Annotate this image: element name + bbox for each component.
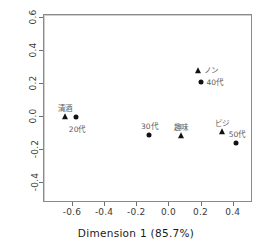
- data-point-label: 50代: [229, 127, 246, 138]
- data-point-circle: [198, 79, 203, 84]
- y-tick-label: -0.2: [30, 140, 40, 158]
- data-point-label: 清酒: [58, 102, 72, 113]
- data-point-circle: [74, 115, 79, 120]
- x-axis-title: Dimension 1 (85.7%): [0, 227, 272, 239]
- x-tick-mark: [168, 202, 169, 206]
- data-point-label: 30代: [141, 120, 158, 131]
- data-point-label: 20代: [69, 123, 86, 134]
- zero-line-vertical: [44, 15, 45, 201]
- zero-line-horizontal: [44, 15, 251, 16]
- data-point-label: ビジ: [215, 117, 229, 128]
- x-tick-mark: [72, 202, 73, 206]
- y-tick-mark: [39, 50, 43, 51]
- plot-frame: 清酒ノン趣味ビジ20代40代30代50代: [43, 14, 252, 202]
- x-tick-label: -0.6: [63, 207, 81, 217]
- x-tick-mark: [136, 202, 137, 206]
- data-point-triangle: [62, 114, 68, 120]
- x-tick-mark: [201, 202, 202, 206]
- x-tick-label: 0.2: [193, 207, 208, 217]
- x-tick-label: -0.4: [95, 207, 113, 217]
- x-tick-label: -0.2: [127, 207, 145, 217]
- data-point-circle: [234, 140, 239, 145]
- data-point-triangle: [219, 128, 225, 134]
- y-tick-label: 0.2: [28, 76, 38, 91]
- data-point-label: 趣味: [174, 121, 188, 132]
- data-point-triangle: [195, 67, 201, 73]
- y-tick-label: -0.4: [30, 173, 40, 191]
- x-tick-mark: [104, 202, 105, 206]
- data-point-label: 40代: [206, 75, 223, 86]
- x-tick-label: 0.4: [225, 207, 240, 217]
- x-tick-mark: [233, 202, 234, 206]
- y-tick-label: 0.4: [28, 43, 38, 58]
- x-tick-label: 0.0: [161, 207, 176, 217]
- data-point-label: ノン: [204, 64, 218, 75]
- y-tick-mark: [39, 17, 43, 18]
- data-point-triangle: [178, 132, 184, 138]
- correspondence-analysis-plot: 清酒ノン趣味ビジ20代40代30代50代 -0.6-0.4-0.20.00.20…: [0, 0, 272, 251]
- y-tick-mark: [39, 116, 43, 117]
- data-point-circle: [147, 133, 152, 138]
- y-tick-label: 0.6: [28, 10, 38, 25]
- y-tick-mark: [39, 83, 43, 84]
- y-tick-label: 0.0: [28, 109, 38, 124]
